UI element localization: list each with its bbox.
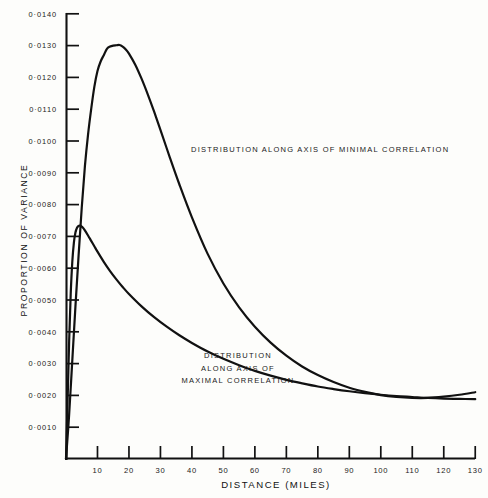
x-tick-label: 40	[187, 466, 197, 475]
y-tick-label: 0·0090	[29, 169, 57, 178]
x-tick-label: 90	[344, 466, 354, 475]
y-tick-label: 0·0130	[29, 41, 57, 50]
y-tick-label: 0·0110	[29, 105, 57, 114]
x-tick-label: 10	[93, 466, 103, 475]
y-tick-label: 0·0020	[29, 391, 57, 400]
x-tick-label: 50	[218, 466, 228, 475]
y-tick-label: 0·0060	[29, 264, 57, 273]
y-tick-label: 0·0140	[29, 10, 57, 19]
x-tick-label: 80	[313, 466, 323, 475]
y-tick-label: 0·0010	[29, 423, 57, 432]
y-tick-label: 0·0100	[29, 137, 57, 146]
x-tick-label: 70	[281, 466, 291, 475]
annotation-maximal-line: DISTRIBUTION	[204, 351, 272, 360]
x-tick-label: 30	[156, 466, 166, 475]
y-tick-label: 0·0050	[29, 296, 57, 305]
annotation-minimal-line: DISTRIBUTION ALONG AXIS OF MINIMAL CORRE…	[191, 145, 449, 154]
x-tick-label: 120	[436, 466, 451, 475]
y-axis-tick-labels: 0·00100·00200·00300·00400·00500·00600·00…	[29, 10, 57, 432]
chart-annotations: DISTRIBUTION ALONG AXIS OF MINIMAL CORRE…	[182, 145, 450, 385]
y-tick-label: 0·0120	[29, 73, 57, 82]
x-axis-title: DISTANCE (MILES)	[221, 479, 331, 490]
figure-container: 0·00100·00200·00300·00400·00500·00600·00…	[0, 0, 488, 498]
variance-distance-chart: 0·00100·00200·00300·00400·00500·00600·00…	[0, 0, 488, 498]
y-tick-label: 0·0080	[29, 200, 57, 209]
annotation-maximal-line: ALONG AXIS OF	[201, 364, 275, 373]
y-tick-label: 0·0040	[29, 328, 57, 337]
x-tick-label: 110	[405, 466, 419, 475]
y-axis-title: PROPORTION OF VARIANCE	[19, 164, 29, 317]
x-tick-label: 20	[124, 466, 134, 475]
x-tick-label: 60	[250, 466, 260, 475]
y-tick-label: 0·0070	[29, 232, 57, 241]
x-axis-tick-labels: 102030405060708090100110120130	[93, 466, 483, 475]
x-tick-label: 130	[468, 466, 483, 475]
annotation-maximal-line: MAXIMAL CORRELATION	[182, 376, 295, 385]
y-tick-label: 0·0030	[29, 359, 57, 368]
x-tick-label: 100	[373, 466, 388, 475]
x-axis-ticks	[97, 446, 475, 459]
